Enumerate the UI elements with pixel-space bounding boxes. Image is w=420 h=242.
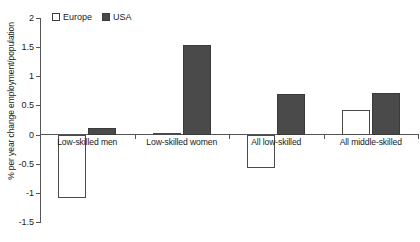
bar-europe-3 [342,110,370,134]
y-tick-label: -0.5 [18,159,34,169]
x-category-label: All middle-skilled [340,137,402,147]
bar-usa-1 [183,45,211,134]
y-tick-label: 2 [29,13,34,23]
bar-europe-1 [153,133,181,135]
plot-area: 21.510.50-0.5-1-1.5 Low-skilled menLow-s… [40,18,418,222]
y-tick-mark [36,76,41,77]
bar-usa-0 [88,128,116,135]
y-tick-label: -1.5 [18,217,34,227]
y-tick-label: -1 [26,188,34,198]
y-tick-mark [36,193,41,194]
x-tick-mark [229,134,230,139]
y-tick-label: 0.5 [21,100,34,110]
y-axis-line [40,18,41,222]
y-tick-label: 1.5 [21,42,34,52]
x-tick-mark [40,134,41,139]
y-tick-mark [36,105,41,106]
x-category-label: Low-skilled men [57,137,117,147]
bar-usa-2 [277,94,305,135]
y-tick-mark [36,47,41,48]
y-tick-label: 0 [29,130,34,140]
bar-usa-3 [372,93,400,134]
x-category-label: All low-skilled [251,137,301,147]
y-tick-mark [36,164,41,165]
x-category-label: Low-skilled women [146,137,217,147]
x-tick-mark [418,134,419,139]
y-tick-mark [36,18,41,19]
y-tick-mark [36,222,41,223]
bar-chart: % per year change employment/population … [0,0,420,242]
x-tick-mark [135,134,136,139]
x-tick-mark [324,134,325,139]
y-axis-label: % per year change employment/population [6,6,16,196]
y-tick-label: 1 [29,71,34,81]
